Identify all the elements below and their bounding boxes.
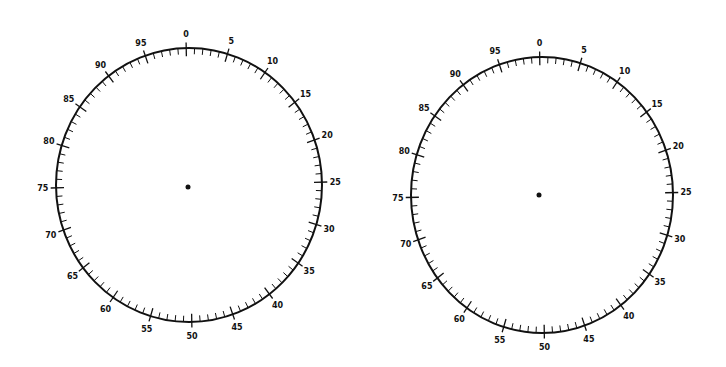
minor-tick bbox=[460, 298, 464, 303]
tick-label: 0 bbox=[537, 39, 543, 48]
tick-label: 85 bbox=[63, 95, 75, 104]
minor-tick bbox=[175, 315, 176, 321]
minor-tick bbox=[135, 305, 137, 311]
minor-tick bbox=[507, 62, 509, 68]
minor-tick bbox=[568, 324, 569, 330]
dial-diagram: 0510152025303540455055606570758085909505… bbox=[0, 0, 726, 367]
minor-tick bbox=[663, 158, 669, 160]
minor-tick bbox=[597, 313, 600, 319]
minor-tick bbox=[143, 308, 145, 314]
tick-label: 90 bbox=[450, 70, 462, 79]
minor-tick bbox=[60, 154, 66, 155]
minor-tick bbox=[66, 236, 72, 238]
minor-tick bbox=[200, 315, 201, 321]
minor-tick bbox=[445, 102, 449, 106]
minor-tick bbox=[451, 96, 455, 100]
minor-tick bbox=[178, 48, 179, 54]
minor-tick bbox=[74, 250, 79, 253]
minor-tick bbox=[313, 215, 319, 216]
minor-tick bbox=[289, 266, 294, 270]
tick-label: 35 bbox=[654, 278, 666, 287]
minor-tick bbox=[115, 71, 118, 76]
tick-label: 45 bbox=[232, 323, 244, 332]
tick-label: 55 bbox=[494, 336, 506, 345]
tick-label: 55 bbox=[141, 325, 153, 334]
minor-tick bbox=[646, 119, 651, 122]
minor-tick bbox=[477, 75, 480, 80]
minor-tick bbox=[421, 246, 426, 248]
minor-tick bbox=[255, 68, 258, 73]
minor-tick bbox=[161, 51, 162, 57]
minor-tick bbox=[302, 246, 307, 249]
minor-tick bbox=[305, 238, 310, 241]
minor-tick bbox=[424, 253, 429, 256]
tick-label: 75 bbox=[392, 194, 404, 203]
minor-tick bbox=[90, 93, 94, 97]
minor-tick bbox=[274, 83, 278, 88]
tick-label: 95 bbox=[135, 39, 147, 48]
dial-ring bbox=[411, 57, 673, 333]
minor-tick bbox=[635, 284, 639, 288]
tick-label: 10 bbox=[619, 67, 631, 76]
minor-tick bbox=[100, 282, 104, 287]
minor-tick bbox=[430, 123, 435, 126]
tick-label: 35 bbox=[304, 267, 316, 276]
minor-tick bbox=[278, 278, 282, 282]
right-dial: 05101520253035404550556065707580859095 bbox=[392, 39, 692, 352]
minor-tick bbox=[71, 122, 76, 125]
minor-tick bbox=[640, 277, 645, 281]
minor-tick bbox=[433, 268, 438, 271]
minor-tick bbox=[88, 270, 93, 274]
tick-label: 40 bbox=[272, 301, 284, 310]
minor-tick bbox=[283, 273, 287, 277]
minor-tick bbox=[67, 129, 72, 132]
minor-tick bbox=[315, 199, 321, 200]
tick-label: 20 bbox=[673, 142, 685, 151]
minor-tick bbox=[563, 59, 564, 65]
minor-tick bbox=[515, 60, 516, 66]
minor-tick bbox=[443, 281, 447, 285]
tick-label: 30 bbox=[674, 235, 686, 244]
minor-tick bbox=[575, 322, 577, 328]
minor-tick bbox=[415, 163, 421, 164]
minor-tick bbox=[96, 87, 100, 91]
minor-tick bbox=[413, 172, 419, 173]
minor-tick bbox=[170, 49, 171, 55]
minor-tick bbox=[528, 326, 529, 332]
minor-tick bbox=[167, 314, 168, 320]
minor-tick bbox=[153, 53, 155, 59]
tick-label: 50 bbox=[539, 343, 551, 352]
minor-tick bbox=[657, 142, 662, 144]
minor-tick bbox=[496, 318, 498, 324]
minor-tick bbox=[268, 78, 272, 83]
minor-tick bbox=[520, 325, 521, 331]
tick-label: 90 bbox=[95, 61, 107, 70]
minor-tick bbox=[202, 49, 203, 55]
minor-tick bbox=[57, 171, 63, 172]
tick-label: 50 bbox=[186, 332, 198, 341]
minor-tick bbox=[223, 311, 225, 317]
tick-label: 95 bbox=[490, 47, 502, 56]
minor-tick bbox=[611, 305, 614, 310]
tick-label: 75 bbox=[37, 184, 49, 193]
minor-tick bbox=[272, 284, 276, 289]
minor-tick bbox=[653, 256, 658, 259]
tick-label: 70 bbox=[45, 231, 57, 240]
minor-tick bbox=[523, 58, 524, 64]
minor-tick bbox=[664, 226, 670, 227]
minor-tick bbox=[600, 73, 603, 78]
tick-label: 80 bbox=[399, 147, 411, 156]
minor-tick bbox=[253, 298, 256, 303]
minor-tick bbox=[590, 317, 592, 323]
tick-label: 20 bbox=[322, 131, 334, 140]
minor-tick bbox=[280, 89, 284, 93]
minor-tick bbox=[629, 289, 633, 293]
minor-tick bbox=[70, 243, 75, 246]
minor-tick bbox=[586, 66, 588, 72]
minor-tick bbox=[666, 209, 672, 210]
minor-tick bbox=[637, 105, 641, 109]
minor-tick bbox=[298, 253, 303, 256]
minor-tick bbox=[56, 196, 62, 197]
minor-tick bbox=[470, 80, 473, 85]
minor-tick bbox=[428, 260, 433, 263]
